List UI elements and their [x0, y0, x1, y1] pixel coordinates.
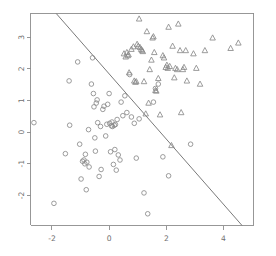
data-points-group: [32, 16, 241, 216]
data-point-triangle: [197, 81, 203, 86]
data-point-circle: [134, 156, 139, 161]
data-point-triangle: [149, 57, 155, 62]
y-tick-label: 3: [17, 35, 26, 40]
data-point-triangle: [156, 75, 162, 80]
data-point-circle: [107, 91, 112, 96]
data-point-circle: [75, 60, 80, 65]
data-point-triangle: [194, 65, 200, 70]
data-point-circle: [188, 142, 193, 147]
y-tick-label: 1: [17, 98, 26, 103]
data-point-circle: [90, 56, 95, 61]
data-point-circle: [156, 82, 161, 87]
data-point-circle: [87, 165, 92, 170]
data-point-circle: [63, 151, 68, 156]
data-point-circle: [97, 174, 102, 179]
data-point-circle: [118, 158, 123, 163]
data-point-triangle: [183, 48, 189, 53]
data-point-circle: [115, 117, 120, 122]
x-tick-label: -2: [48, 234, 56, 243]
data-point-circle: [132, 121, 137, 126]
data-point-circle: [105, 122, 110, 127]
data-point-circle: [119, 100, 124, 105]
data-point-circle: [93, 149, 98, 154]
data-point-circle: [98, 124, 103, 129]
data-point-triangle: [177, 48, 183, 53]
tick-marks-group: [27, 37, 224, 229]
data-point-circle: [105, 102, 110, 107]
data-point-circle: [94, 101, 99, 106]
data-point-circle: [145, 211, 150, 216]
plot-canvas: -20243210-1-2: [0, 0, 276, 256]
y-tick-label: 2: [17, 66, 26, 71]
data-point-triangle: [236, 40, 242, 45]
data-point-triangle: [210, 35, 216, 40]
data-point-circle: [83, 152, 88, 157]
y-tick-label: 0: [17, 130, 26, 135]
y-tick-label: -2: [17, 191, 26, 199]
tick-labels-group: -20243210-1-2: [17, 35, 226, 243]
series-class-triangle: [121, 16, 241, 148]
data-point-triangle: [146, 100, 152, 105]
data-point-circle: [161, 155, 166, 160]
data-point-circle: [103, 134, 108, 139]
x-tick-label: 0: [107, 234, 112, 243]
x-tick-label: 4: [221, 234, 226, 243]
data-point-circle: [89, 82, 94, 87]
data-point-circle: [111, 162, 116, 167]
data-point-circle: [123, 93, 128, 98]
data-point-triangle: [172, 75, 178, 80]
data-point-circle: [108, 149, 113, 154]
data-point-triangle: [136, 16, 142, 21]
data-point-circle: [86, 127, 91, 132]
data-point-circle: [166, 174, 171, 179]
data-point-triangle: [176, 21, 182, 26]
data-point-circle: [142, 191, 147, 196]
data-point-triangle: [166, 24, 172, 29]
data-point-triangle: [184, 78, 190, 83]
data-point-circle: [93, 136, 98, 141]
data-point-circle: [137, 117, 142, 122]
data-point-circle: [95, 98, 100, 103]
data-point-circle: [116, 153, 121, 158]
data-point-triangle: [170, 43, 176, 48]
data-point-circle: [121, 113, 126, 118]
decision-boundary: [56, 14, 242, 226]
data-point-circle: [77, 142, 82, 147]
y-tick-label: -1: [17, 160, 26, 168]
data-point-circle: [32, 120, 37, 125]
data-point-triangle: [147, 67, 153, 72]
data-point-circle: [79, 177, 84, 182]
data-point-triangle: [191, 51, 197, 56]
data-point-triangle: [228, 45, 234, 50]
data-point-circle: [151, 100, 156, 105]
data-point-circle: [114, 168, 119, 173]
data-point-circle: [67, 79, 72, 84]
data-point-circle: [113, 147, 118, 152]
data-point-circle: [91, 91, 96, 96]
data-point-triangle: [144, 29, 150, 34]
data-point-triangle: [141, 79, 147, 84]
data-point-triangle: [178, 110, 184, 115]
x-tick-label: 2: [164, 234, 169, 243]
data-point-circle: [129, 115, 134, 120]
data-point-circle: [84, 187, 89, 192]
data-point-triangle: [157, 112, 163, 117]
data-point-circle: [125, 110, 130, 115]
data-point-circle: [99, 167, 104, 172]
data-point-triangle: [202, 48, 208, 53]
scatter-plot-figure: -20243210-1-2: [0, 0, 276, 256]
decision-boundary-group: [56, 14, 242, 226]
series-class-circle: [32, 56, 193, 217]
data-point-circle: [67, 123, 72, 128]
data-point-triangle: [152, 49, 158, 54]
data-point-circle: [52, 201, 57, 206]
